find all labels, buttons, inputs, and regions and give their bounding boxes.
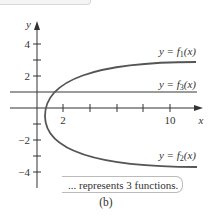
figure-b: 2 10 x 4 2 −2 −4 y y = f1(x) y = f3(x) y… — [0, 0, 212, 223]
callout-box: ... represents 3 functions. — [62, 176, 183, 193]
f2-label: y = f2(x) — [158, 149, 196, 163]
y-tick-label-4: 4 — [25, 38, 31, 50]
x-axis-arrow-icon — [194, 105, 203, 111]
y-axis-label: y — [25, 18, 31, 30]
y-axis-arrow-icon — [34, 21, 40, 30]
figure-caption: (b) — [0, 196, 212, 208]
f3-label: y = f3(x) — [158, 78, 196, 92]
x-axis-label: x — [198, 114, 204, 126]
y-tick-label-2: 2 — [25, 70, 31, 82]
x-tick-label-10: 10 — [165, 114, 177, 126]
cropped-callout-remnant — [0, 0, 91, 5]
y-tick-label-neg4: −4 — [18, 166, 30, 178]
x-tick-label-2: 2 — [60, 114, 66, 126]
f1-label: y = f1(x) — [158, 45, 196, 59]
y-tick-label-neg2: −2 — [18, 134, 30, 146]
